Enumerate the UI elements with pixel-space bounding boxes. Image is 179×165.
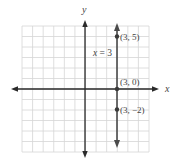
x-axis-right-arrow-icon — [152, 86, 159, 91]
y-axis-label: y — [81, 4, 87, 15]
point-3-0 — [115, 87, 119, 91]
line-up-arrow-icon — [114, 23, 120, 31]
point-label-3-neg2: (3, −2) — [120, 105, 145, 115]
point-label-3-5: (3, 5) — [120, 32, 140, 42]
point-label-3-0: (3, 0) — [120, 77, 140, 87]
line-equation-label: x = 3 — [92, 48, 112, 58]
coordinate-plane: y x x = 3 (3, 5) (3, 0) (3, −2) — [0, 0, 179, 165]
y-axis-up-arrow-icon — [82, 20, 87, 27]
x-axis-label: x — [164, 83, 170, 94]
line-equation-rest: = 3 — [97, 48, 112, 58]
point-3-neg2 — [115, 107, 119, 111]
y-axis-down-arrow-icon — [82, 151, 87, 158]
line-down-arrow-icon — [114, 140, 120, 148]
x-axis-left-arrow-icon — [11, 86, 18, 91]
point-3-5 — [115, 34, 119, 38]
